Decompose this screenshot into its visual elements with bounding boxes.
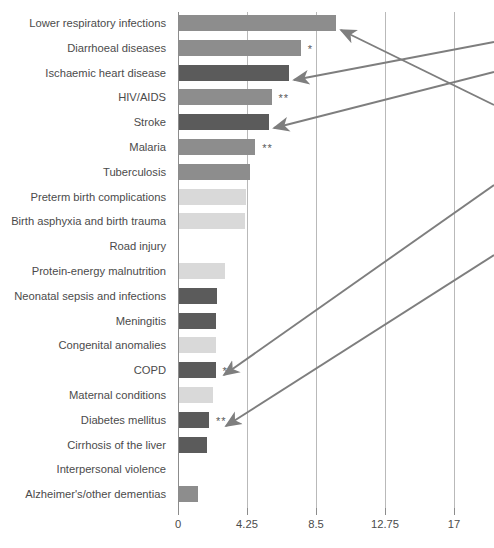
- bar: [179, 65, 289, 81]
- bar: [179, 387, 213, 403]
- y-axis-line: [178, 12, 179, 508]
- significance-marker: *: [308, 44, 313, 55]
- bar: [179, 412, 209, 428]
- bar: [179, 89, 272, 105]
- category-label: Alzheimer's/other dementias: [25, 489, 166, 500]
- x-tick-label: 0: [175, 518, 181, 530]
- x-tick-mark: [178, 508, 179, 515]
- bar: [179, 313, 216, 329]
- x-tick-label: 17: [448, 518, 460, 530]
- category-label: Preterm birth complications: [30, 192, 166, 203]
- x-tick-mark: [247, 508, 248, 515]
- x-tick-label: 12.75: [371, 518, 399, 530]
- x-tick-mark: [316, 508, 317, 515]
- bar: [179, 362, 216, 378]
- category-label: Protein-energy malnutrition: [32, 266, 166, 277]
- significance-marker: *: [223, 366, 228, 377]
- significance-marker: **: [216, 416, 227, 427]
- category-label: Ischaemic heart disease: [45, 68, 166, 79]
- bar: [179, 486, 198, 502]
- x-tick-mark: [454, 508, 455, 515]
- bar: [179, 263, 225, 279]
- bar: [179, 213, 245, 229]
- bar: [179, 114, 269, 130]
- category-label: HIV/AIDS: [118, 92, 166, 103]
- category-label: Diarrhoeal diseases: [67, 43, 166, 54]
- bar: [179, 139, 255, 155]
- bar: [179, 164, 250, 180]
- gridline-12.75: [385, 12, 386, 508]
- bar: [179, 40, 301, 56]
- x-tick-label: 4.25: [236, 518, 258, 530]
- x-tick-label: 8.5: [308, 518, 324, 530]
- category-label: Stroke: [134, 117, 166, 128]
- bar: [179, 189, 246, 205]
- category-label: Congenital anomalies: [58, 340, 166, 351]
- category-label: COPD: [134, 365, 166, 376]
- category-label: Cirrhosis of the liver: [67, 440, 166, 451]
- category-label: Birth asphyxia and birth trauma: [11, 216, 166, 227]
- category-label: Meningitis: [116, 316, 166, 327]
- category-label: Diabetes mellitus: [81, 415, 166, 426]
- x-tick-mark: [385, 508, 386, 515]
- bar: [179, 288, 217, 304]
- bar: [179, 15, 336, 31]
- significance-marker: **: [279, 93, 290, 104]
- category-label-column: Lower respiratory infectionsDiarrhoeal d…: [0, 0, 172, 512]
- category-label: Malaria: [129, 142, 166, 153]
- gridline-4.25: [247, 12, 248, 508]
- bar-chart: Lower respiratory infectionsDiarrhoeal d…: [0, 0, 494, 548]
- gridline-8.5: [316, 12, 317, 508]
- category-label: Interpersonal violence: [57, 464, 166, 475]
- significance-marker: **: [262, 143, 273, 154]
- category-label: Road injury: [109, 241, 166, 252]
- category-label: Tuberculosis: [103, 167, 166, 178]
- x-axis: 04.258.512.7517: [178, 508, 478, 542]
- category-label: Lower respiratory infections: [29, 18, 166, 29]
- plot-area: ********: [178, 12, 458, 508]
- bar: [179, 437, 207, 453]
- gridline-17: [454, 12, 455, 508]
- category-label: Neonatal sepsis and infections: [14, 291, 166, 302]
- category-label: Maternal conditions: [69, 390, 166, 401]
- bar: [179, 337, 216, 353]
